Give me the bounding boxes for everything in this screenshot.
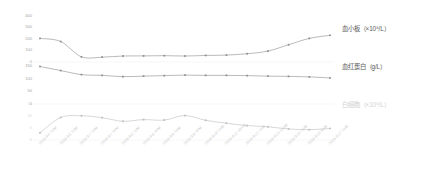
data-point[interactable]	[205, 75, 207, 77]
data-point[interactable]	[39, 66, 41, 68]
y-tick-hemoglobin: 100	[12, 77, 32, 81]
data-point[interactable]	[143, 119, 145, 121]
data-point[interactable]	[184, 115, 186, 117]
data-point[interactable]	[308, 38, 310, 40]
y-tick-wbc: 15	[12, 102, 32, 106]
lab-trend-chart: 4003002001000150100500151050 2019-9-5 7A…	[0, 0, 432, 187]
y-tick-hemoglobin: 150	[12, 64, 32, 68]
data-point[interactable]	[60, 70, 62, 72]
data-point[interactable]	[226, 54, 228, 56]
data-point[interactable]	[163, 119, 165, 121]
legend-item-platelet[interactable]: 血小板（×10⁹/L）	[342, 25, 390, 33]
data-point[interactable]	[163, 75, 165, 77]
data-point[interactable]	[81, 56, 83, 58]
data-point[interactable]	[122, 76, 124, 78]
data-point[interactable]	[122, 55, 124, 57]
data-point[interactable]	[226, 122, 228, 124]
data-point[interactable]	[143, 75, 145, 77]
data-point[interactable]	[101, 117, 103, 119]
data-point[interactable]	[226, 75, 228, 77]
series-platelet	[39, 34, 331, 58]
data-point[interactable]	[288, 44, 290, 46]
data-point[interactable]	[39, 132, 41, 134]
data-point[interactable]	[101, 75, 103, 77]
data-point[interactable]	[267, 75, 269, 77]
data-point[interactable]	[329, 77, 331, 79]
legend-item-wbc[interactable]: 白细胞（×10⁹/L）	[342, 101, 390, 109]
data-point[interactable]	[308, 129, 310, 131]
y-tick-wbc: 10	[12, 114, 32, 118]
data-point[interactable]	[267, 126, 269, 128]
y-tick-platelet: 400	[12, 14, 32, 18]
data-point[interactable]	[288, 76, 290, 78]
data-point[interactable]	[81, 115, 83, 117]
data-point[interactable]	[205, 55, 207, 57]
y-tick-wbc: 5	[12, 126, 32, 130]
y-tick-platelet: 300	[12, 25, 32, 29]
y-tick-hemoglobin: 50	[12, 89, 32, 93]
data-point[interactable]	[60, 41, 62, 43]
data-point[interactable]	[308, 76, 310, 78]
data-point[interactable]	[184, 55, 186, 57]
data-point[interactable]	[163, 55, 165, 57]
data-point[interactable]	[39, 38, 41, 40]
data-point[interactable]	[184, 74, 186, 76]
data-point[interactable]	[329, 34, 331, 36]
series-line-platelet	[40, 35, 330, 58]
plot-area: 4003002001000150100500151050 2019-9-5 7A…	[0, 0, 340, 187]
y-tick-platelet: 100	[12, 48, 32, 52]
data-point[interactable]	[101, 56, 103, 58]
chart-legend: 血小板（×10⁹/L） 血红蛋白（g/L） 白细胞（×10⁹/L）	[342, 0, 432, 187]
series-layer	[39, 34, 331, 133]
data-point[interactable]	[288, 128, 290, 130]
y-tick-wbc: 0	[12, 138, 32, 142]
chart-canvas	[0, 0, 340, 187]
data-point[interactable]	[122, 120, 124, 122]
data-point[interactable]	[329, 128, 331, 130]
series-line-hemoglobin	[40, 67, 330, 78]
data-point[interactable]	[267, 50, 269, 52]
data-point[interactable]	[246, 53, 248, 55]
data-point[interactable]	[143, 55, 145, 57]
data-point[interactable]	[205, 119, 207, 121]
data-point[interactable]	[246, 75, 248, 77]
data-point[interactable]	[81, 74, 83, 76]
y-tick-platelet: 200	[12, 37, 32, 41]
data-point[interactable]	[60, 117, 62, 119]
legend-item-hemoglobin[interactable]: 血红蛋白（g/L）	[342, 63, 386, 71]
series-hemoglobin	[39, 66, 331, 79]
